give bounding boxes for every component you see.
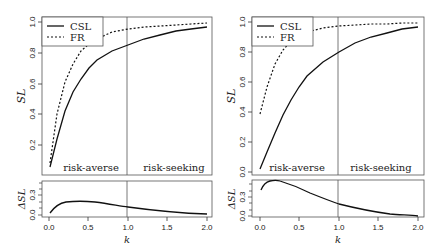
x-tick: 0.5	[82, 223, 94, 232]
y-tick: 0.4	[28, 108, 37, 120]
x-tick: 0.0	[43, 223, 55, 232]
x-axis-ticks	[260, 217, 418, 221]
legend-csl-label: CSL	[70, 21, 92, 32]
legend-fr-label: FR	[70, 32, 85, 43]
x-tick: 0.0	[254, 223, 266, 232]
y-axis-label: ΔSL	[16, 188, 27, 210]
y-tick: 0.3	[28, 189, 37, 201]
risk-averse-label: risk-averse	[63, 162, 119, 173]
x-axis-ticks	[49, 217, 207, 221]
legend: CSL FR	[252, 17, 313, 46]
risk-seeking-label: risk-seeking	[143, 162, 205, 173]
y-tick: 0.0	[28, 209, 37, 221]
y-tick: 0.6	[28, 78, 37, 90]
risk-seeking-label: risk-seeking	[350, 162, 412, 173]
y-tick: 0.0	[238, 210, 247, 222]
y-tick: 0.8	[238, 46, 247, 58]
x-axis-label: k	[335, 234, 341, 245]
y-tick: 0.6	[238, 76, 247, 88]
x-tick: 2.0	[412, 223, 424, 232]
x-axis-label: k	[124, 234, 130, 245]
right-bottom-plot: 0.0 0.3 ΔSL 0.0 0.5 1.0 1.5 2.0 k	[226, 180, 424, 245]
y-axis-ticks	[38, 22, 42, 145]
y-axis-ticks	[38, 183, 42, 215]
csl-curve	[50, 27, 207, 167]
y-tick: 1.0	[238, 16, 247, 28]
right-top-plot: 1.0 0.8 0.6 0.4 0.2 0.0 SL CSL FR risk-a…	[225, 16, 424, 178]
x-tick: 0.5	[293, 223, 305, 232]
y-tick: 1.0	[28, 16, 37, 28]
y-axis-label: SL	[225, 89, 238, 104]
y-tick: 0.0	[238, 166, 247, 178]
left-bottom-plot: 0.0 0.3 ΔSL 0.0 0.5 1.0 1.5 2.0 k	[16, 181, 213, 245]
y-tick: 0.4	[238, 106, 247, 118]
delta-sl-curve	[261, 180, 418, 216]
legend-csl-label: CSL	[280, 21, 302, 32]
x-tick: 1.0	[333, 223, 345, 232]
left-top-plot: 1.0 0.8 0.6 0.4 0.2 SL CSL FR risk-avers…	[15, 16, 212, 175]
legend: CSL FR	[42, 17, 103, 46]
figure: 1.0 0.8 0.6 0.4 0.2 SL CSL FR risk-avers…	[0, 0, 445, 252]
delta-sl-curve	[50, 201, 207, 214]
y-tick: 0.2	[28, 139, 37, 151]
y-axis-label: SL	[15, 89, 28, 104]
x-tick: 2.0	[201, 223, 213, 232]
x-tick: 1.5	[161, 223, 173, 232]
y-axis-label: ΔSL	[226, 188, 237, 210]
y-axis-ticks	[248, 22, 252, 172]
x-tick: 1.0	[122, 223, 134, 232]
y-tick: 0.3	[238, 191, 247, 203]
csl-curve	[260, 27, 418, 169]
y-axis-ticks	[248, 184, 252, 216]
y-tick: 0.2	[238, 136, 247, 148]
x-tick: 1.5	[372, 223, 384, 232]
risk-averse-label: risk-averse	[269, 162, 325, 173]
legend-fr-label: FR	[280, 32, 295, 43]
y-tick: 0.8	[28, 47, 37, 59]
